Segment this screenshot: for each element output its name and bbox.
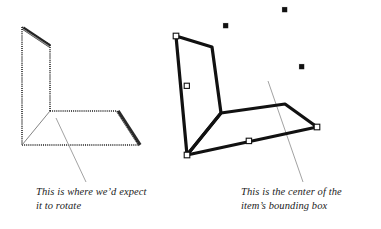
bounding-box-handle[interactable] — [282, 7, 288, 13]
path-knot[interactable] — [173, 33, 179, 39]
path-knot[interactable] — [184, 83, 189, 88]
left-caption: This is where we’d expect it to rotate — [36, 185, 196, 212]
path-knot[interactable] — [314, 124, 320, 130]
bounding-box-handle[interactable] — [223, 23, 229, 29]
path-knot[interactable] — [184, 152, 190, 158]
bounding-box-handle[interactable] — [299, 64, 305, 70]
path-knot[interactable] — [246, 138, 251, 143]
right-caption: This is the center of the item’s boundin… — [241, 185, 381, 212]
